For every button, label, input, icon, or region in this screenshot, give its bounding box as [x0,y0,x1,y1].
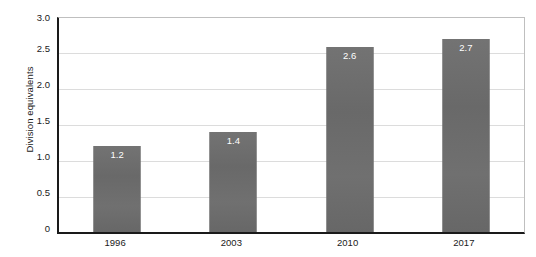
bar-value-2010: 2.6 [326,50,373,61]
y-tick-label-20: 2.0 [6,80,50,90]
y-tick-label-10: 1.0 [6,152,50,162]
bar-2017[interactable]: 2.7 [442,39,489,232]
y-tick-label-0: 0 [6,224,50,234]
bar-2003[interactable]: 1.4 [210,132,257,232]
bar-value-2003: 1.4 [210,135,257,146]
y-tick-label-25: 2.5 [6,44,50,54]
bar-1996[interactable]: 1.2 [94,146,141,232]
bar-group-2003: 1.4 [175,18,291,232]
bar-2010[interactable]: 2.6 [326,47,373,233]
x-axis-tick-labels: 1996 2003 2010 2017 [57,237,522,253]
y-tick-label-15: 1.5 [6,116,50,126]
y-axis-tick-labels: 0 0.5 1.0 1.5 2.0 2.5 3.0 [0,17,50,231]
plot-area: 1.2 1.4 2.6 2.7 [57,17,525,234]
x-tick-label-2010: 2010 [290,237,406,249]
bar-chart: Division equivalents 0 0.5 1.0 1.5 2.0 2… [0,0,536,257]
x-tick-label-2003: 2003 [173,237,289,249]
x-tick-label-2017: 2017 [406,237,522,249]
y-tick-label-05: 0.5 [6,188,50,198]
bar-group-1996: 1.2 [59,18,175,232]
y-tick-label-30: 3.0 [6,13,50,23]
bars-layer: 1.2 1.4 2.6 2.7 [59,18,524,232]
bar-value-1996: 1.2 [94,149,141,160]
bar-group-2010: 2.6 [292,18,408,232]
bar-value-2017: 2.7 [442,42,489,53]
bar-group-2017: 2.7 [408,18,524,232]
x-tick-label-1996: 1996 [57,237,173,249]
